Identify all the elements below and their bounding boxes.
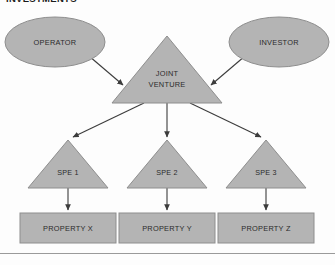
node-property-y[interactable]: PROPERTY Y <box>119 213 215 243</box>
investment-structure-diagram: OPERATOR INVESTOR JOINT VENTURE SPE 1 SP… <box>0 0 335 265</box>
diagram-canvas: INVESTMENTS OPERATOR INVESTOR <box>0 0 335 265</box>
spe2-triangle <box>127 140 207 188</box>
investor-label: INVESTOR <box>259 38 299 47</box>
edge-jv-to-spe3 <box>190 103 261 137</box>
node-spe3[interactable]: SPE 3 <box>226 140 306 188</box>
spe1-triangle <box>28 140 108 188</box>
edge-operator-to-jv <box>89 56 123 85</box>
joint-venture-label-line1: JOINT <box>156 69 179 78</box>
operator-label: OPERATOR <box>34 38 77 47</box>
node-spe2[interactable]: SPE 2 <box>127 140 207 188</box>
node-joint-venture[interactable]: JOINT VENTURE <box>112 36 222 103</box>
property-x-label: PROPERTY X <box>43 224 93 233</box>
spe2-label: SPE 2 <box>156 168 178 177</box>
node-operator[interactable]: OPERATOR <box>5 17 105 67</box>
node-property-z[interactable]: PROPERTY Z <box>218 213 314 243</box>
spe3-label: SPE 3 <box>255 168 277 177</box>
edge-investor-to-jv <box>211 56 245 85</box>
edge-jv-to-spe1 <box>73 103 144 137</box>
property-z-label: PROPERTY Z <box>241 224 291 233</box>
property-y-label: PROPERTY Y <box>142 224 192 233</box>
node-spe1[interactable]: SPE 1 <box>28 140 108 188</box>
node-property-x[interactable]: PROPERTY X <box>20 213 116 243</box>
bottom-divider <box>0 253 335 254</box>
spe1-label: SPE 1 <box>57 168 79 177</box>
spe3-triangle <box>226 140 306 188</box>
joint-venture-label-line2: VENTURE <box>148 80 185 89</box>
node-investor[interactable]: INVESTOR <box>229 17 329 67</box>
